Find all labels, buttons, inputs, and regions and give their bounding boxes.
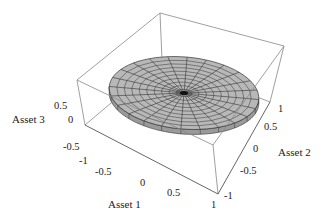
- z-tick: -0.5: [63, 141, 80, 152]
- x-tick: -0.5: [95, 166, 112, 177]
- z-tick: 0.5: [54, 100, 67, 111]
- surface-plot: 0.5 0 -0.5 Asset 3 -1 -0.5 0 0.5 1 Asset…: [0, 0, 330, 219]
- y-tick: -1: [224, 190, 233, 201]
- y-tick: 0: [253, 143, 258, 154]
- x-tick: 1: [211, 199, 216, 210]
- x-tick: 0: [140, 177, 145, 188]
- y-tick: 1: [278, 103, 283, 114]
- z-tick: 0: [68, 114, 73, 125]
- disk-surface: [109, 57, 259, 135]
- x-tick: 0.5: [167, 187, 180, 198]
- y-tick: -0.5: [240, 165, 257, 176]
- x-tick: -1: [79, 155, 88, 166]
- z-axis-label: Asset 3: [12, 113, 45, 125]
- x-axis-label: Asset 1: [108, 198, 141, 210]
- y-axis-label: Asset 2: [278, 146, 311, 158]
- y-tick: 0.5: [264, 121, 277, 132]
